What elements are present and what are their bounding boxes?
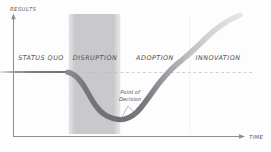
phase-label-disruption: DISRUPTION	[73, 54, 117, 62]
annotation-point-of-decision-line1: Point of	[120, 89, 141, 95]
annotation-point-of-decision-line2: Decision	[119, 96, 141, 102]
disruption-j-curve-chart: RESULTS TIME STATUS QUO DISRUPTION ADOPT…	[0, 0, 271, 152]
annotation-leader-right	[128, 106, 134, 112]
phase-label-status-quo: STATUS QUO	[18, 54, 64, 62]
chart-canvas: RESULTS TIME STATUS QUO DISRUPTION ADOPT…	[0, 0, 271, 152]
x-axis-label: TIME	[249, 134, 264, 140]
phase-label-innovation: INNOVATION	[196, 54, 241, 62]
x-axis-arrow-icon	[239, 134, 245, 139]
y-axis-arrow-icon	[11, 14, 16, 20]
y-axis-label: RESULTS	[10, 6, 37, 12]
phase-label-adoption: ADOPTION	[135, 54, 174, 62]
